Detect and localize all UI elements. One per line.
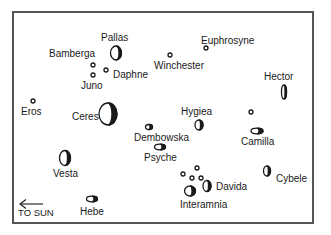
label-hector: Hector — [264, 71, 293, 82]
winchester-icon — [168, 53, 172, 57]
ceres-icon — [99, 103, 117, 125]
label-pallas: Pallas — [101, 32, 128, 43]
euphrosyne-icon — [204, 46, 208, 50]
pallas-icon — [111, 46, 122, 60]
cybele-icon — [264, 166, 271, 176]
dembowska-icon — [146, 125, 153, 130]
label-dembowska: Dembowska — [134, 132, 189, 143]
psyche-icon — [155, 144, 166, 150]
asteroid-cluster — [181, 166, 203, 180]
label-camilla: Camilla — [241, 136, 274, 147]
direction-label: TO SUN — [18, 208, 54, 218]
hygiea-icon — [195, 120, 203, 130]
label-davida: Davida — [216, 181, 247, 192]
asteroid-glyphs — [0, 0, 331, 235]
label-hygiea: Hygiea — [181, 106, 212, 117]
eros-icon — [31, 99, 35, 103]
label-euphrosyne: Euphrosyne — [201, 35, 254, 46]
label-cybele: Cybele — [276, 173, 307, 184]
label-juno: Juno — [81, 80, 103, 91]
label-bamberga: Bamberga — [49, 48, 95, 59]
vesta-icon — [60, 151, 71, 166]
label-hebe: Hebe — [80, 206, 104, 217]
label-interamnia: Interamnia — [180, 199, 227, 210]
hebe-icon — [87, 196, 98, 202]
label-ceres: Ceres — [72, 111, 99, 122]
unlabeled-asteroid-icon — [249, 110, 253, 114]
bamberga-icon — [91, 63, 95, 67]
hector-icon — [282, 85, 287, 99]
label-psyche: Psyche — [144, 152, 177, 163]
label-eros: Eros — [21, 106, 42, 117]
label-vesta: Vesta — [53, 168, 78, 179]
label-winchester: Winchester — [154, 60, 204, 71]
camilla-icon — [251, 128, 263, 134]
interamnia-icon — [185, 186, 196, 196]
daphne-icon — [104, 68, 108, 72]
juno-icon — [91, 73, 95, 77]
label-daphne: Daphne — [113, 69, 148, 80]
davida-icon — [203, 181, 211, 192]
